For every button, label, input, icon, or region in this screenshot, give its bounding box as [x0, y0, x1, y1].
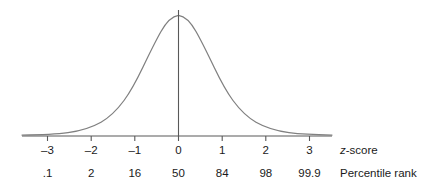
percentile-row-title: Percentile rank — [340, 165, 417, 181]
zscore-tick-label: –3 — [26, 142, 70, 158]
zscore-tick-label: –1 — [113, 142, 157, 158]
percentile-tick-label: 50 — [157, 165, 201, 181]
percentile-tick-label: 2 — [69, 165, 113, 181]
zscore-row-title: z-score — [340, 142, 378, 158]
normal-distribution-figure: –3 –2 –1 0 1 2 3 z-score .1 2 16 50 84 9… — [0, 0, 442, 194]
zscore-tick-label: 2 — [244, 142, 288, 158]
x-axis-ticks — [48, 136, 310, 141]
percentile-tick-label: .1 — [26, 165, 70, 181]
bell-curve-path — [22, 15, 332, 135]
zscore-tick-label: 1 — [200, 142, 244, 158]
percentile-tick-label: 16 — [113, 165, 157, 181]
percentile-tick-label: 99.9 — [288, 165, 332, 181]
zscore-tick-label: 3 — [288, 142, 332, 158]
percentile-label-row: .1 2 16 50 84 98 99.9 Percentile rank — [0, 165, 442, 181]
percentile-tick-label: 84 — [200, 165, 244, 181]
percentile-tick-label: 98 — [244, 165, 288, 181]
zscore-title-suffix: -score — [346, 144, 378, 156]
zscore-tick-label: 0 — [157, 142, 201, 158]
zscore-label-row: –3 –2 –1 0 1 2 3 z-score — [0, 142, 442, 158]
zscore-tick-label: –2 — [69, 142, 113, 158]
